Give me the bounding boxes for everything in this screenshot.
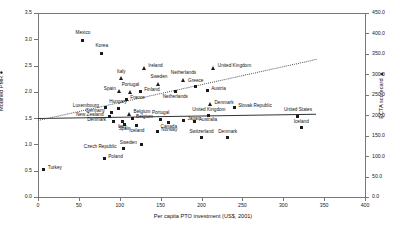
point-label: Ireland — [148, 64, 162, 69]
y-axis-title: Modified PMR ● — [0, 6, 4, 176]
point-label: United States — [268, 108, 328, 113]
point-label: Australia — [199, 118, 217, 123]
data-point-square — [226, 136, 229, 139]
y2-tick — [365, 95, 369, 96]
y-tick — [34, 144, 38, 145]
x-tick — [283, 197, 284, 201]
data-point-square — [100, 52, 103, 55]
data-point-square — [233, 106, 236, 109]
point-label: Austria — [211, 87, 226, 92]
x-tick-label: 400 — [350, 203, 380, 208]
data-point-triangle — [211, 66, 215, 70]
y2-tick-label: 0.0 — [372, 194, 379, 199]
x-tick-label: 150 — [146, 203, 176, 208]
data-point-triangle — [181, 78, 185, 82]
data-point-square — [193, 120, 196, 123]
x-tick — [79, 197, 80, 201]
point-label: Italy — [91, 70, 151, 75]
x-tick — [120, 197, 121, 201]
y2-tick — [365, 156, 369, 157]
point-label: United Kingdom — [179, 108, 239, 113]
data-point-square — [139, 90, 142, 93]
y-tick-label: 0.5 — [10, 168, 32, 173]
y-tick — [34, 66, 38, 67]
chart-figure: 0.00.51.01.52.02.53.03.5 0.050.0100.0150… — [0, 0, 406, 235]
point-label: United Kingdom — [218, 64, 251, 69]
data-point-square — [42, 168, 45, 171]
data-point-square — [182, 119, 185, 122]
data-point-triangle — [127, 112, 131, 116]
x-tick-label: 200 — [187, 203, 217, 208]
data-point-square — [110, 111, 113, 114]
data-point-square — [112, 120, 115, 123]
data-point-square — [103, 157, 106, 160]
x-tick — [161, 197, 162, 201]
point-label: Poland — [108, 155, 123, 160]
x-axis-title: Per capita PTO investment (US$, 2001) — [0, 213, 406, 219]
y2-tick — [365, 136, 369, 137]
y2-tick — [365, 115, 369, 116]
data-point-square — [194, 85, 197, 88]
data-point-square — [140, 143, 143, 146]
y-tick-label: 3.0 — [10, 37, 32, 42]
point-label: Netherlands — [145, 95, 205, 100]
y2-tick — [365, 13, 369, 14]
point-label: Mexico — [53, 31, 113, 36]
x-tick-label: 350 — [309, 203, 339, 208]
data-point-square — [200, 136, 203, 139]
point-label: Denmark — [214, 101, 233, 106]
point-label: Korea — [72, 44, 132, 49]
point-label: Sweden — [120, 141, 137, 146]
y2-axis-title: ECTA scorecard ▲ — [378, 10, 384, 180]
y2-tick — [365, 177, 369, 178]
x-tick — [365, 197, 366, 201]
y2-tick — [365, 74, 369, 75]
y-tick — [34, 92, 38, 93]
y-tick-label: 2.0 — [10, 89, 32, 94]
data-point-triangle — [117, 89, 121, 93]
point-label: Belgium — [134, 110, 151, 115]
x-tick-label: 250 — [227, 203, 257, 208]
plot-area: 0.00.51.01.52.02.53.03.5 0.050.0100.0150… — [38, 13, 366, 198]
point-label: Finland — [144, 88, 159, 93]
x-tick-label: 300 — [268, 203, 298, 208]
data-point-square — [108, 115, 111, 118]
y-tick — [34, 13, 38, 14]
data-point-square — [122, 147, 125, 150]
y2-tick — [365, 33, 369, 34]
data-point-square — [117, 107, 120, 110]
x-tick-label: 0 — [23, 203, 53, 208]
data-point-square — [300, 126, 303, 129]
point-label: Czech Republic — [84, 145, 117, 150]
point-label: Denmark — [198, 130, 258, 135]
x-tick-label: 100 — [105, 203, 135, 208]
y-axis-line — [38, 13, 39, 198]
y-tick-label: 3.5 — [10, 10, 32, 15]
data-point-square — [159, 118, 162, 121]
point-label: Turkey — [48, 166, 62, 171]
data-point-square — [207, 114, 210, 117]
data-point-square — [174, 90, 177, 93]
data-point-square — [81, 39, 84, 42]
y-tick — [34, 39, 38, 40]
data-point-square — [156, 130, 159, 133]
y-tick — [34, 171, 38, 172]
data-point-triangle — [119, 76, 123, 80]
y-tick-label: 1.5 — [10, 116, 32, 121]
point-label: Portugal — [100, 83, 160, 88]
data-point-triangle — [128, 90, 132, 94]
x-tick — [202, 197, 203, 201]
point-label: Slovak Republic — [238, 104, 272, 109]
x-tick — [242, 197, 243, 201]
x-tick-label: 50 — [64, 203, 94, 208]
data-point-square — [206, 89, 209, 92]
data-point-triangle — [208, 102, 212, 106]
y-tick-label: 0.0 — [10, 194, 32, 199]
point-label: Netherlands — [154, 71, 214, 76]
y-tick-label: 1.0 — [10, 142, 32, 147]
point-label: Hungary — [88, 100, 148, 105]
y-tick-label: 2.5 — [10, 63, 32, 68]
point-label: Iceland — [271, 120, 331, 125]
point-label: Denmark — [87, 118, 106, 123]
data-point-square — [131, 117, 134, 120]
